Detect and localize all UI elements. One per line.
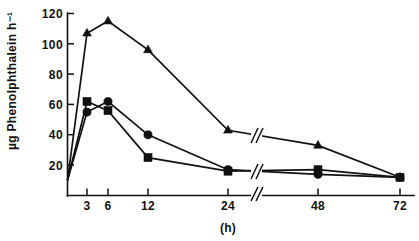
series-markers-triangle — [83, 16, 405, 180]
series-line-square — [68, 102, 401, 181]
data-point-circle-3h — [83, 108, 91, 116]
y-tick-label-120: 120 — [42, 7, 63, 21]
y-tick-label-20: 20 — [49, 159, 63, 173]
chart-figure: µg Phenolphthalein h⁻¹ 120 100 80 60 40 … — [0, 0, 419, 241]
x-tick-label-6: 6 — [104, 199, 111, 213]
series-line-triangle — [68, 21, 401, 180]
series-line-circle — [68, 102, 401, 181]
data-point-triangle-6h — [104, 16, 113, 24]
data-point-circle-6h — [104, 97, 112, 105]
data-point-square-3h — [83, 98, 91, 106]
y-tick-label-80: 80 — [49, 68, 63, 82]
data-point-circle-72h — [396, 173, 404, 181]
data-point-circle-12h — [144, 131, 152, 139]
series-markers-square — [83, 98, 404, 182]
x-tick-label-48: 48 — [311, 199, 325, 213]
x-tick-label-3: 3 — [83, 199, 90, 213]
data-point-square-12h — [144, 154, 152, 162]
data-point-circle-48h — [314, 170, 322, 178]
y-tick-label-40: 40 — [49, 128, 63, 142]
x-tick-label-12: 12 — [141, 199, 155, 213]
x-tick-label-72: 72 — [393, 199, 407, 213]
data-point-circle-24h — [224, 166, 232, 174]
x-tick-label-24: 24 — [221, 199, 235, 213]
y-tick-label-100: 100 — [42, 38, 63, 52]
y-axis-title: µg Phenolphthalein h⁻¹ — [5, 12, 19, 150]
x-axis-title: (h) — [220, 221, 236, 235]
y-tick-label-60: 60 — [49, 98, 63, 112]
series-markers-circle — [83, 97, 404, 181]
data-point-square-6h — [104, 107, 112, 115]
line-chart-plot: µg Phenolphthalein h⁻¹ 120 100 80 60 40 … — [0, 0, 419, 241]
data-point-triangle-12h — [144, 45, 153, 53]
